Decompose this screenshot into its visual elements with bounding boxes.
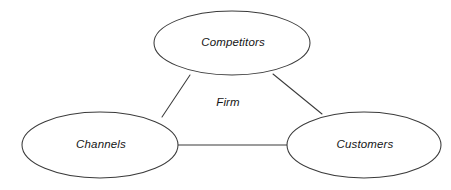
diagram-canvas: Competitors Channels Customers Firm: [0, 0, 451, 190]
firm-relationship-diagram: Competitors Channels Customers Firm: [0, 0, 451, 190]
node-customers-label: Customers: [337, 138, 394, 150]
node-channels-label: Channels: [76, 138, 126, 150]
connector-competitors-customers: [273, 74, 322, 114]
center-firm-label: Firm: [216, 96, 240, 108]
node-competitors-label: Competitors: [201, 36, 265, 48]
connector-competitors-channels: [162, 75, 190, 117]
